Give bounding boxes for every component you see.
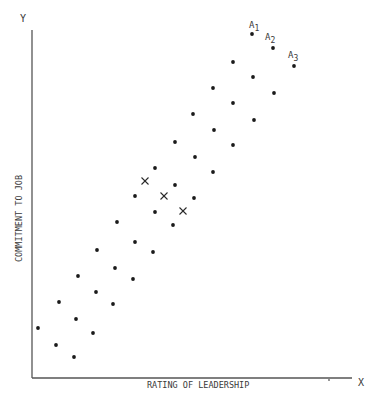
point-label: A1 xyxy=(249,20,259,33)
data-point xyxy=(111,302,115,306)
data-point xyxy=(133,240,137,244)
data-point xyxy=(212,128,216,132)
data-point xyxy=(153,166,157,170)
data-point xyxy=(292,64,296,68)
data-point xyxy=(72,355,76,359)
data-point xyxy=(252,118,256,122)
data-point xyxy=(36,326,40,330)
data-point xyxy=(133,194,137,198)
cross-marker xyxy=(161,193,168,200)
data-point xyxy=(57,300,61,304)
data-point xyxy=(231,60,235,64)
data-point xyxy=(271,46,275,50)
data-point xyxy=(95,248,99,252)
data-point xyxy=(76,274,80,278)
data-point xyxy=(54,343,58,347)
data-point xyxy=(131,277,135,281)
data-point xyxy=(173,140,177,144)
data-point xyxy=(173,183,177,187)
data-point xyxy=(231,143,235,147)
data-point xyxy=(171,223,175,227)
cross-marker xyxy=(180,208,187,215)
data-point xyxy=(272,91,276,95)
scatter-chart: Y X COMMITMENT TO JOB RATING OF LEADERSH… xyxy=(0,0,367,408)
axes xyxy=(32,30,352,378)
data-point xyxy=(74,317,78,321)
x-axis-label: RATING OF LEADERSHIP xyxy=(147,380,249,390)
data-point xyxy=(192,196,196,200)
data-point xyxy=(211,86,215,90)
data-point xyxy=(151,250,155,254)
data-point xyxy=(94,290,98,294)
data-points xyxy=(36,32,296,359)
point-label: A2 xyxy=(265,32,275,45)
point-label: A3 xyxy=(288,50,298,63)
data-point xyxy=(153,210,157,214)
point-annotations: A1A2A3 xyxy=(249,20,298,63)
data-point xyxy=(115,220,119,224)
data-point xyxy=(251,75,255,79)
stray-mark xyxy=(328,379,330,381)
data-point xyxy=(250,32,254,36)
data-point xyxy=(211,170,215,174)
data-point xyxy=(231,101,235,105)
y-axis-label: COMMITMENT TO JOB xyxy=(14,175,24,262)
data-point xyxy=(193,155,197,159)
cross-marker xyxy=(142,178,149,185)
data-point xyxy=(191,112,195,116)
data-point xyxy=(91,331,95,335)
data-point xyxy=(113,266,117,270)
x-axis-letter: X xyxy=(358,377,364,388)
y-axis-letter: Y xyxy=(20,13,26,24)
